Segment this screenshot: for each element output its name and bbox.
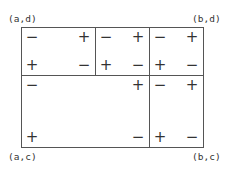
horizontal-divider	[21, 75, 204, 76]
sign-bottom-left-cell-tr: +	[131, 78, 145, 93]
sign-bottom-right-cell-tr: +	[185, 78, 199, 93]
sign-top-left-cell-tl: −	[25, 30, 39, 45]
sign-top-left-cell-tr: +	[77, 30, 91, 45]
vertical-divider-full	[149, 27, 150, 148]
outer-top-edge	[21, 27, 204, 28]
sign-top-right-cell-tl: −	[153, 30, 167, 45]
sign-bottom-right-cell-tl: −	[153, 78, 167, 93]
corner-label-top-left: (a,d)	[8, 14, 37, 24]
sign-top-left-cell-bl: +	[25, 58, 39, 73]
corner-label-bottom-right: (b,c)	[192, 152, 221, 162]
vertical-divider-upper	[95, 27, 96, 76]
sign-bottom-right-cell-br: −	[185, 130, 199, 145]
sign-top-middle-cell-br: −	[131, 58, 145, 73]
sign-top-middle-cell-bl: +	[99, 58, 113, 73]
sign-top-right-cell-tr: +	[185, 30, 199, 45]
corner-label-bottom-left: (a,c)	[8, 152, 37, 162]
sign-bottom-left-cell-bl: +	[25, 130, 39, 145]
sign-bottom-right-cell-bl: +	[153, 130, 167, 145]
outer-left-edge	[21, 27, 22, 148]
sign-top-right-cell-br: −	[185, 58, 199, 73]
sign-top-middle-cell-tr: +	[131, 30, 145, 45]
outer-right-edge	[203, 27, 204, 148]
sign-top-left-cell-br: −	[77, 58, 91, 73]
sign-top-right-cell-bl: +	[153, 58, 167, 73]
sign-top-middle-cell-tl: −	[99, 30, 113, 45]
outer-bottom-edge	[21, 147, 204, 148]
sign-bottom-left-cell-tl: −	[25, 78, 39, 93]
sign-bottom-left-cell-br: −	[131, 130, 145, 145]
corner-label-top-right: (b,d)	[192, 14, 221, 24]
